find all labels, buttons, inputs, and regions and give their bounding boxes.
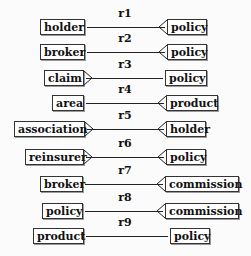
entity-box: holder (40, 19, 85, 35)
crows-foot-icon (159, 20, 167, 34)
crows-foot-icon (85, 122, 93, 136)
entity-box: product (166, 95, 218, 111)
relationship-line (86, 157, 164, 158)
crows-foot-icon (157, 204, 165, 218)
entity-box: policy (165, 70, 207, 86)
relationship-label: r3 (110, 58, 140, 71)
entity-box: area (52, 95, 84, 111)
relationship-label: r8 (110, 191, 140, 204)
entity-box: policy (167, 19, 207, 35)
relationship-label: r9 (110, 216, 140, 229)
entity-box: policy (166, 149, 206, 165)
entity-box: broker (40, 176, 83, 192)
entity-box: commission (165, 176, 239, 192)
crows-foot-icon (84, 150, 92, 164)
entity-box: commission (165, 203, 239, 219)
entity-box: policy (167, 44, 207, 60)
crows-foot-icon (158, 122, 166, 136)
entity-box: holder (166, 121, 206, 137)
relationship-label: r1 (110, 7, 140, 20)
relationship-label: r7 (110, 164, 140, 177)
entity-box: reinsurer (25, 149, 84, 165)
relationship-line (85, 211, 163, 212)
relationship-label: r2 (110, 32, 140, 45)
crows-foot-icon (157, 177, 165, 191)
relationship-line (86, 78, 163, 79)
relationship-line (86, 236, 168, 237)
relationship-label: r6 (110, 137, 140, 150)
entity-box: association (14, 121, 85, 137)
crows-foot-icon (158, 96, 166, 110)
relationship-label: r4 (110, 83, 140, 96)
relationship-line (87, 129, 164, 130)
relationship-line (85, 184, 163, 185)
relationship-line (87, 52, 165, 53)
entity-box: policy (170, 228, 210, 244)
relationship-label: r5 (110, 109, 140, 122)
entity-box: broker (40, 44, 85, 60)
crows-foot-icon (84, 71, 92, 85)
crows-foot-icon (158, 150, 166, 164)
relationship-line (86, 103, 164, 104)
crows-foot-icon (159, 45, 167, 59)
relationship-line (87, 27, 165, 28)
entity-box: claim (44, 70, 84, 86)
entity-box: product (33, 228, 84, 244)
entity-box: policy (42, 203, 83, 219)
